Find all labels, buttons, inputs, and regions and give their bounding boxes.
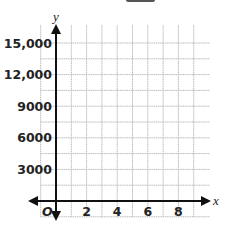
coordinate-grid: y x O 2468 30006000900012,00015,000 [0,0,229,230]
y-tick-label: 15,000 [4,36,53,51]
y-axis-label: y [51,9,59,24]
grid-lines [41,25,210,217]
y-tick-label: 9000 [17,99,52,114]
y-tick-label: 12,000 [4,67,53,82]
y-tick-labels: 30006000900012,00015,000 [4,36,53,177]
x-tick-label: 6 [143,204,152,219]
x-tick-label: 8 [174,204,183,219]
y-tick-label: 3000 [17,162,52,177]
x-tick-label: 4 [113,204,122,219]
x-tick-label: 2 [82,204,91,219]
origin-label: O [42,204,53,219]
y-tick-label: 6000 [17,130,52,145]
x-axis-label: x [212,193,219,208]
